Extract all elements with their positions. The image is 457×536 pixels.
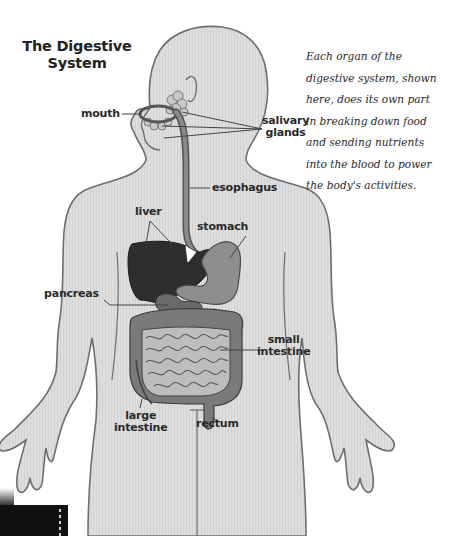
label-stomach: stomach	[197, 221, 248, 233]
label-rectum: rectum	[196, 418, 239, 430]
caption-line: in breaking down food	[306, 111, 456, 133]
label-line: intestine	[257, 346, 310, 358]
label-mouth: mouth	[81, 108, 120, 120]
label-esophagus: esophagus	[212, 182, 277, 194]
page-corner-tab	[0, 505, 68, 536]
perforation-line	[59, 509, 61, 536]
title-line-2: System	[22, 55, 132, 72]
label-pancreas: pancreas	[44, 288, 99, 300]
label-salivary-glands: salivary glands	[262, 115, 309, 139]
label-line: glands	[262, 127, 309, 139]
digestive-system-diagram: The Digestive System Each organ of the d…	[0, 0, 457, 536]
caption-text: Each organ of the digestive system, show…	[306, 46, 456, 197]
caption-line: here, does its own part	[306, 89, 456, 111]
label-line: intestine	[114, 422, 167, 434]
title-line-1: The Digestive	[22, 38, 132, 55]
label-liver: liver	[135, 206, 162, 218]
diagram-title: The Digestive System	[22, 38, 132, 72]
label-large-intestine: large intestine	[114, 410, 167, 434]
label-small-intestine: small intestine	[257, 334, 310, 358]
caption-line: into the blood to power	[306, 154, 456, 176]
caption-line: and sending nutrients	[306, 132, 456, 154]
caption-line: the body's activities.	[306, 175, 456, 197]
caption-line: digestive system, shown	[306, 68, 456, 90]
caption-line: Each organ of the	[306, 46, 456, 68]
